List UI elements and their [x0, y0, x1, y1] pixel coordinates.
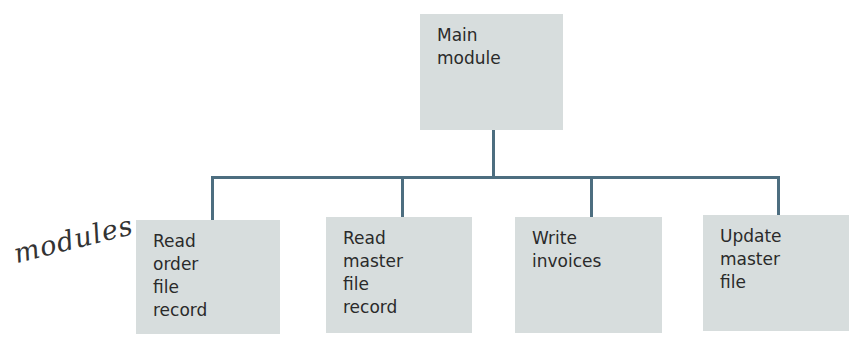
- main-module-box: Main module: [420, 14, 563, 130]
- handwritten-modules-annotation: modules: [11, 209, 137, 269]
- box-text: module: [437, 47, 549, 70]
- horizontal-bus-connector: [211, 176, 780, 179]
- child-3-connector: [590, 176, 593, 217]
- box-text: Update: [720, 225, 835, 248]
- child-2-connector: [401, 176, 404, 217]
- box-text: record: [153, 299, 266, 322]
- box-text: file: [720, 271, 835, 294]
- box-text: file: [343, 273, 458, 296]
- child-1-connector: [211, 176, 214, 220]
- box-text: Write: [532, 227, 648, 250]
- box-text: Read: [153, 230, 266, 253]
- box-text: file: [153, 276, 266, 299]
- box-text: Main: [437, 24, 549, 47]
- box-text: master: [343, 250, 458, 273]
- box-text: master: [720, 248, 835, 271]
- child-4-connector: [777, 176, 780, 215]
- update-master-file-box: Update master file: [703, 215, 849, 331]
- read-master-file-record-box: Read master file record: [326, 217, 472, 333]
- write-invoices-box: Write invoices: [515, 217, 662, 333]
- box-text: Read: [343, 227, 458, 250]
- box-text: order: [153, 253, 266, 276]
- root-stem-connector: [492, 130, 495, 179]
- box-text: record: [343, 296, 458, 319]
- box-text: invoices: [532, 250, 648, 273]
- read-order-file-record-box: Read order file record: [136, 220, 280, 334]
